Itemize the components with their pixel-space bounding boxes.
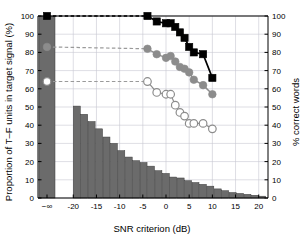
y-axis-right-tick-label: 80 (272, 48, 281, 57)
y-axis-left-tick-label: 60 (25, 85, 34, 94)
y-axis-left-tick-label: 80 (25, 48, 34, 57)
x-axis-tick-label: 10 (208, 202, 217, 211)
y-axis-left-tick-label: 70 (25, 67, 34, 76)
y-axis-right-title: % correct words (290, 78, 301, 146)
y-axis-right-tick-label: 100 (272, 12, 286, 21)
x-axis-break-tick-label: −∞ (42, 202, 53, 211)
y-axis-left-tick-label: 50 (25, 103, 34, 112)
y-axis-right-tick-label: 90 (272, 30, 281, 39)
y-axis-right-tick-label: 10 (272, 176, 281, 185)
y-axis-right-tick-label: 0 (272, 194, 277, 203)
x-axis-tick-label: 0 (164, 202, 169, 211)
y-axis-left-tick-label: 20 (25, 158, 34, 167)
x-axis-title: SNR criterion (dB) (113, 223, 190, 234)
y-axis-left-tick-label: 10 (25, 176, 34, 185)
x-axis-tick-label: -20 (67, 202, 79, 211)
y-axis-left-title: Proportion of T–F units in target signal… (3, 23, 14, 201)
x-axis-tick-label: -10 (114, 202, 126, 211)
chart-canvas: Proportion of T–F units in target signal… (0, 0, 308, 240)
x-axis-tick-label: 20 (254, 202, 263, 211)
figure-container: Proportion of T–F units in target signal… (0, 0, 308, 240)
series-markers (43, 12, 216, 132)
y-axis-left-tick-label: 0 (30, 194, 35, 203)
y-axis-left-tick-label: 40 (25, 121, 34, 130)
y-axis-right-tick-label: 70 (272, 67, 281, 76)
y-axis-right-tick-label: 40 (272, 121, 281, 130)
x-axis-tick-label: -5 (139, 202, 147, 211)
y-axis-right-tick-label: 20 (272, 158, 281, 167)
x-axis-tick-label: 5 (187, 202, 192, 211)
y-axis-left-tick-label: 90 (25, 30, 34, 39)
y-axis-right-tick-label: 60 (272, 85, 281, 94)
y-axis-left-tick-label: 30 (25, 139, 34, 148)
x-axis-tick-label: -15 (91, 202, 103, 211)
y-axis-right-tick-label: 30 (272, 139, 281, 148)
y-axis-left-tick-label: 100 (21, 12, 35, 21)
x-axis-tick-label: 15 (231, 202, 240, 211)
y-axis-right-tick-label: 50 (272, 103, 281, 112)
